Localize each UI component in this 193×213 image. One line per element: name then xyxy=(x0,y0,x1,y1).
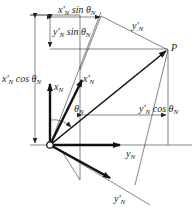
y-rot-axis-label: y'N xyxy=(113,193,126,206)
dim-left-label: x'N cos θN xyxy=(1,73,42,86)
rotation-diagram: P xN x'N yN y'N y'N x'N θN x'N sin θN y'… xyxy=(0,0,193,213)
position-vector-p xyxy=(50,51,166,145)
y-axis-label: yN xyxy=(125,148,135,161)
dim-upper-inner-label: y'N sin θN xyxy=(52,26,91,39)
angle-label: θN xyxy=(74,103,84,116)
x-axis-label: xN xyxy=(53,81,63,94)
x-rot-axis-label: x'N xyxy=(82,73,95,86)
axis-vectors xyxy=(50,80,120,178)
origin-point xyxy=(47,142,53,148)
diagram-svg: P xN x'N yN y'N y'N x'N θN x'N sin θN y'… xyxy=(0,0,193,213)
dim-right-label: y'N cos θN xyxy=(138,103,179,116)
y-rot-segment-label: y'N xyxy=(131,20,144,33)
point-p-label: P xyxy=(170,42,177,53)
